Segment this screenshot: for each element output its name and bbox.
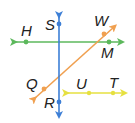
point-h: [24, 40, 29, 45]
point-w: [102, 32, 107, 37]
label-q: Q: [26, 75, 38, 92]
geometry-diagram: H S W M Q R U T: [0, 0, 135, 123]
label-u: U: [76, 75, 87, 92]
point-u: [87, 91, 91, 95]
label-r: R: [44, 94, 55, 111]
label-s: S: [45, 16, 55, 33]
label-t: T: [109, 74, 120, 91]
point-s: [57, 22, 62, 27]
label-m: M: [101, 44, 114, 61]
diagram-svg: H S W M Q R U T: [0, 0, 135, 123]
label-h: H: [21, 22, 32, 39]
point-q: [42, 87, 47, 92]
point-r: [57, 100, 62, 105]
point-t: [111, 91, 115, 95]
label-w: W: [94, 12, 110, 29]
